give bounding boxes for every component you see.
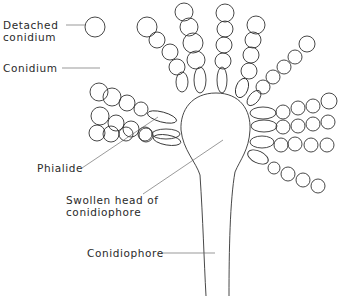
label-phialide: Phialide xyxy=(37,162,83,174)
label-conidium: Conidium xyxy=(3,62,58,74)
label-detached-conidium: Detached conidium xyxy=(3,19,58,43)
diagram-canvas: Detached conidium Conidium Phialide Swol… xyxy=(0,0,350,303)
conidia-chains xyxy=(85,3,337,193)
conidiophore-outline xyxy=(181,93,250,296)
conidiophore-illustration xyxy=(0,0,350,303)
label-conidiophore: Conidiophore xyxy=(87,247,164,259)
detached-conidium xyxy=(85,17,105,37)
label-swollen-head: Swollen head of conidiophore xyxy=(66,194,159,218)
